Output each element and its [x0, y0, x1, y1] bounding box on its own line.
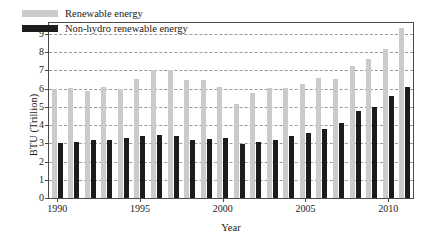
bar: [356, 111, 361, 198]
bar: [190, 140, 195, 198]
bars-layer: [49, 23, 413, 198]
bar: [223, 138, 228, 198]
bar-group: [248, 23, 265, 198]
bar: [217, 87, 222, 198]
y-tick-label: 3: [39, 138, 44, 148]
bar: [316, 78, 321, 198]
bar-group: [132, 23, 149, 198]
y-tick-label: 1: [39, 175, 44, 185]
bar: [174, 136, 179, 198]
y-tick-label: 6: [39, 84, 44, 94]
legend-swatch-icon: [22, 25, 58, 32]
legend-item[interactable]: Non-hydro renewable energy: [22, 21, 242, 36]
x-axis-title: Year: [48, 222, 414, 233]
bar: [85, 91, 90, 198]
bar-group: [115, 23, 132, 198]
legend-label: Non-hydro renewable energy: [65, 23, 188, 35]
bar: [134, 79, 139, 198]
bar-group: [148, 23, 165, 198]
bar: [289, 136, 294, 198]
bar: [68, 88, 73, 198]
bar: [140, 136, 145, 198]
bar: [118, 89, 123, 198]
x-tick-mark: [388, 198, 389, 202]
bar-group: [264, 23, 281, 198]
bar: [52, 89, 57, 198]
bar: [405, 87, 410, 198]
legend-label: Renewable energy: [65, 8, 143, 20]
y-tick-label: 0: [39, 193, 44, 203]
bar: [273, 140, 278, 198]
x-tick-label: 1995: [130, 203, 150, 214]
bar-group: [82, 23, 99, 198]
bar: [306, 133, 311, 198]
bar: [300, 84, 305, 198]
chart-figure: BTU (Trillion) 0123456789 19901995200020…: [0, 0, 432, 250]
x-tick-label: 2000: [213, 203, 233, 214]
bar: [322, 129, 327, 198]
bar: [372, 107, 377, 199]
y-tick-label: 4: [39, 120, 44, 130]
bar: [234, 104, 239, 198]
bar: [240, 144, 245, 198]
bar: [389, 96, 394, 198]
bar: [91, 140, 96, 198]
bar: [399, 28, 404, 198]
bar-group: [330, 23, 347, 198]
y-tick-mark: [45, 198, 49, 199]
bar: [366, 59, 371, 198]
bar-group: [396, 23, 413, 198]
bar: [350, 66, 355, 198]
bar: [333, 79, 338, 198]
bar: [250, 93, 255, 198]
bar: [256, 142, 261, 198]
bar-group: [181, 23, 198, 198]
bar-group: [214, 23, 231, 198]
y-axis-title: BTU (Trillion): [28, 94, 39, 156]
bar: [383, 49, 388, 198]
bar: [201, 80, 206, 198]
bar-group: [314, 23, 331, 198]
bar: [157, 135, 162, 198]
bar-group: [380, 23, 397, 198]
x-tick-mark: [140, 198, 141, 202]
chart-legend: Renewable energyNon-hydro renewable ener…: [22, 6, 242, 36]
x-tick-label: 1990: [47, 203, 67, 214]
bar-group: [347, 23, 364, 198]
bar: [101, 87, 106, 198]
bar: [74, 142, 79, 198]
bar-group: [165, 23, 182, 198]
y-tick-label: 5: [39, 102, 44, 112]
bar: [107, 140, 112, 198]
y-tick-label: 8: [39, 47, 44, 57]
bar-group: [231, 23, 248, 198]
bar-group: [198, 23, 215, 198]
x-tick-mark: [305, 198, 306, 202]
bar-group: [363, 23, 380, 198]
x-tick-label: 2010: [378, 203, 398, 214]
bar: [151, 70, 156, 198]
bar: [283, 88, 288, 198]
legend-item[interactable]: Renewable energy: [22, 6, 242, 21]
y-tick-label: 2: [39, 157, 44, 167]
bar: [339, 123, 344, 198]
bar: [267, 88, 272, 198]
bar-group: [49, 23, 66, 198]
bar-group: [99, 23, 116, 198]
bar: [124, 138, 129, 198]
legend-swatch-icon: [22, 10, 58, 17]
bar-group: [66, 23, 83, 198]
bar-group: [297, 23, 314, 198]
bar: [207, 139, 212, 198]
bar: [184, 80, 189, 198]
x-tick-label: 2005: [295, 203, 315, 214]
x-tick-mark: [223, 198, 224, 202]
plot-area: 0123456789 19901995200020052010: [48, 22, 414, 199]
bar-group: [281, 23, 298, 198]
y-tick-label: 7: [39, 65, 44, 75]
x-tick-mark: [57, 198, 58, 202]
bar: [58, 143, 63, 198]
bar: [168, 70, 173, 198]
